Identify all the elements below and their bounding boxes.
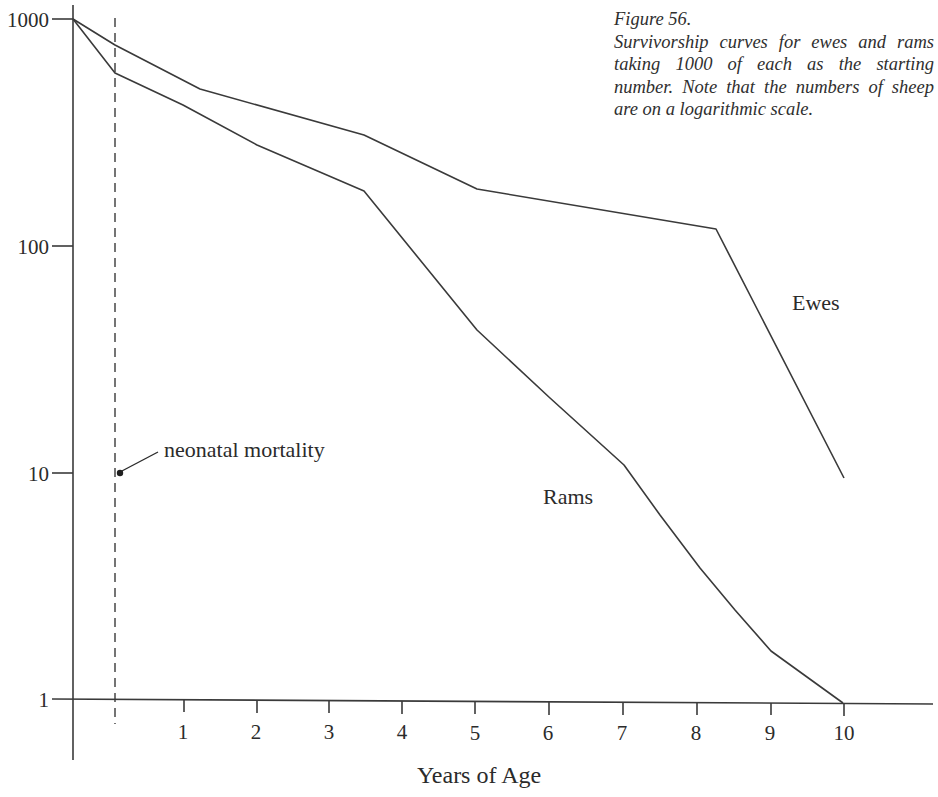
x-tick-label-6: 6 <box>543 721 554 745</box>
neonatal-mortality-label: neonatal mortality <box>164 437 325 462</box>
x-tick-label-8: 8 <box>691 721 702 745</box>
rams-curve <box>73 19 843 703</box>
annotation-dot <box>117 470 123 476</box>
figure-caption-text: Survivorship curves for ewes and rams ta… <box>614 31 934 121</box>
x-tick-label-2: 2 <box>251 720 262 744</box>
figure-number: Figure 56. <box>614 8 934 31</box>
y-tick-label-1: 1 <box>39 688 50 712</box>
ewes-label: Ewes <box>792 290 840 315</box>
x-tick-label-3: 3 <box>324 720 335 744</box>
y-tick-label-1000: 1000 <box>7 8 49 32</box>
y-tick-label-10: 10 <box>28 462 49 486</box>
x-tick-label-7: 7 <box>617 721 628 745</box>
annotation-leader-line <box>120 452 158 472</box>
x-axis-title: Years of Age <box>417 762 541 788</box>
figure-caption: Figure 56. Survivorship curves for ewes … <box>614 8 934 121</box>
x-tick-label-5: 5 <box>470 721 481 745</box>
y-tick-label-100: 100 <box>18 235 50 259</box>
x-tick-label-10: 10 <box>834 721 855 745</box>
rams-label: Rams <box>543 484 593 509</box>
x-tick-label-4: 4 <box>397 720 408 744</box>
x-tick-label-1: 1 <box>178 720 189 744</box>
y-ticks <box>52 19 73 473</box>
x-tick-label-9: 9 <box>765 721 776 745</box>
